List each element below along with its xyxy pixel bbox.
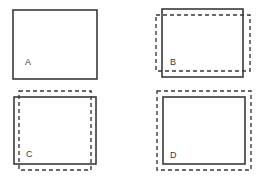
panel-d-label: D: [170, 150, 177, 160]
panel-b: B: [156, 9, 250, 77]
panel-a-solid-rect: [13, 10, 97, 79]
panel-a-label: A: [25, 57, 31, 67]
panel-d: D: [157, 91, 251, 170]
diagram-canvas: A B C D: [0, 0, 263, 181]
panel-c: C: [14, 91, 96, 170]
panel-c-label: C: [26, 149, 33, 159]
panel-b-label: B: [170, 57, 176, 67]
panel-a: A: [13, 10, 97, 79]
